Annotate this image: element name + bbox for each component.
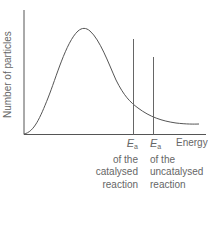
ea-catalysed-line3: reaction xyxy=(96,179,138,192)
ea-uncatalysed-symbol: Ea xyxy=(150,137,203,154)
distribution-curve xyxy=(24,28,199,134)
ea-uncatalysed-line2: uncatalysed xyxy=(150,166,203,179)
ea-catalysed-label: Ea of the catalysed reaction xyxy=(96,137,138,191)
y-axis-label: Number of particles xyxy=(2,31,13,118)
ea-catalysed-line2: catalysed xyxy=(96,166,138,179)
ea-catalysed-line1: of the xyxy=(96,154,138,167)
ea-catalysed-symbol: Ea xyxy=(96,137,138,154)
ea-uncatalysed-line1: of the xyxy=(150,154,203,167)
ea-uncatalysed-line3: reaction xyxy=(150,179,203,192)
ea-uncatalysed-label: Ea of the uncatalysed reaction xyxy=(150,137,203,191)
